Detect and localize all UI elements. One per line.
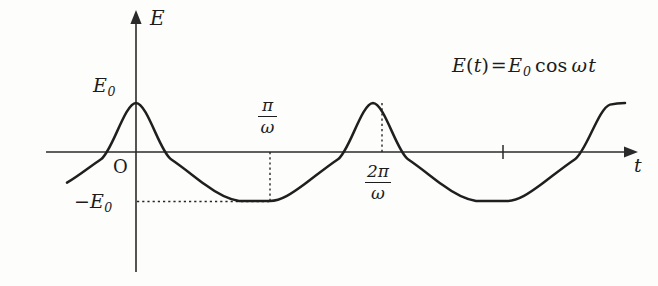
cosine-waveform-figure: E t O E0 −E0 π ω 2π ω E(t)=E0cosωt	[0, 0, 658, 286]
positive-amplitude-label: E0	[93, 76, 115, 98]
minus-sign: −	[74, 190, 90, 212]
plot-canvas	[0, 0, 658, 286]
equation-cos-operator: cos	[535, 54, 567, 76]
y-axis	[130, 10, 141, 272]
y-axis-arrowhead	[130, 10, 141, 24]
tick-label-2pi-over-omega: 2π ω	[365, 163, 391, 203]
equation-time-variable: t	[588, 54, 596, 76]
origin-label: O	[113, 158, 128, 176]
y-axis-label: E	[150, 8, 165, 28]
equation-annotation: E(t)=E0cosωt	[452, 56, 596, 78]
equation-omega: ω	[572, 54, 588, 76]
negative-amplitude-subscript: 0	[104, 200, 112, 215]
equation-equals: =	[491, 54, 507, 76]
negative-amplitude-label: −E0	[74, 192, 112, 214]
equation-lhs-t: t	[474, 54, 482, 76]
equation-amplitude-symbol: E	[508, 54, 522, 76]
positive-amplitude-symbol: E	[93, 74, 107, 96]
equation-amplitude-subscript: 0	[523, 64, 531, 79]
equation-close-paren: )	[482, 54, 490, 76]
tick-label-2pi-over-omega-denominator: ω	[369, 185, 387, 203]
negative-amplitude-symbol: E	[90, 190, 104, 212]
tick-label-pi-over-omega-numerator: π	[260, 97, 275, 115]
tick-label-pi-over-omega: π ω	[258, 97, 277, 137]
positive-amplitude-subscript: 0	[107, 84, 115, 99]
x-axis-label: t	[634, 156, 642, 175]
equation-lhs-e: E	[452, 54, 466, 76]
tick-label-pi-over-omega-denominator: ω	[259, 119, 277, 137]
tick-label-2pi-over-omega-numerator: 2π	[365, 163, 391, 181]
equation-open-paren: (	[466, 54, 474, 76]
